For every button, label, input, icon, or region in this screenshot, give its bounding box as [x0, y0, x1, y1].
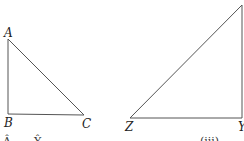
cutoff-text-caption: (iii) [200, 135, 219, 141]
vertex-label-z: Z [124, 120, 134, 134]
triangle-xyz [130, 5, 242, 118]
vertex-label-a: A [3, 26, 13, 40]
vertex-label-y: Y [238, 120, 244, 134]
cutoff-text-a-hat: Â [2, 134, 12, 141]
side-bc [8, 114, 84, 115]
triangle-abc [8, 39, 84, 115]
diagram-canvas: A B C Z Y Â Ŷ (iii) [0, 0, 244, 141]
side-zx [130, 5, 242, 118]
vertex-label-b: B [3, 116, 13, 130]
cutoff-text-y-hat: Ŷ [33, 134, 42, 141]
vertex-label-c: C [82, 117, 91, 131]
side-ac [8, 39, 84, 115]
